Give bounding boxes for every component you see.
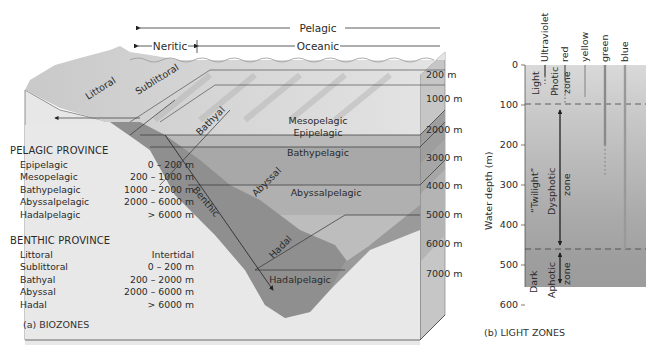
legend-row: Bathypelagic1000 – 2000 m xyxy=(10,184,194,197)
svg-text:5000 m: 5000 m xyxy=(426,209,462,220)
svg-text:400: 400 xyxy=(500,219,518,230)
svg-text:0: 0 xyxy=(512,59,518,70)
light-zones-chart: 0 100 200 300 400 500 600 Water depth (m… xyxy=(483,12,646,310)
label-epipelagic: Epipelagic xyxy=(294,127,343,138)
svg-text:4000 m: 4000 m xyxy=(426,180,462,191)
legend-row: Abyssalpelagic2000 – 6000 m xyxy=(10,196,194,209)
legend-row: Epipelagic0 – 200 m xyxy=(10,159,194,172)
legend-row: Mesopelagic200 – 1000 m xyxy=(10,171,194,184)
oceanic-bracket: Oceanic xyxy=(198,40,440,52)
svg-text:2000 m: 2000 m xyxy=(426,124,462,135)
svg-text:600: 600 xyxy=(500,299,518,310)
benthic-province-title: BENTHIC PROVINCE xyxy=(10,235,194,248)
label-abyssalpelagic: Abyssalpelagic xyxy=(291,187,362,198)
legend-row: Hadal> 6000 m xyxy=(10,299,194,312)
pelagic-province-legend: PELAGIC PROVINCE Epipelagic0 – 200 m Mes… xyxy=(10,145,194,222)
benthic-province-legend: BENTHIC PROVINCE LittoralIntertidal Subl… xyxy=(10,235,194,312)
svg-text:yellow: yellow xyxy=(579,31,590,62)
zone-photic: Photic xyxy=(549,67,560,96)
legend-row: LittoralIntertidal xyxy=(10,249,194,262)
zone-light: Light xyxy=(530,71,541,95)
svg-text:1000 m: 1000 m xyxy=(426,93,462,104)
zone-aphotic: Aphotic xyxy=(546,262,557,298)
caption-light-zones: (b) LIGHT ZONES xyxy=(484,327,565,338)
svg-text:Oceanic: Oceanic xyxy=(297,40,340,52)
legend-row: Abyssal2000 – 6000 m xyxy=(10,286,194,299)
svg-text:200: 200 xyxy=(500,139,518,150)
legend-row: Hadalpelagic> 6000 m xyxy=(10,209,194,222)
zone-twilight: “Twilight” xyxy=(529,167,540,213)
pelagic-bracket: Pelagic xyxy=(140,22,440,34)
svg-text:red: red xyxy=(559,46,570,62)
svg-text:7000 m: 7000 m xyxy=(426,268,462,279)
svg-text:blue: blue xyxy=(619,41,630,62)
svg-text:200 m: 200 m xyxy=(426,69,456,80)
legend-row: Sublittoral0 – 200 m xyxy=(10,261,194,274)
svg-text:100: 100 xyxy=(500,99,518,110)
zone-photic-zone: zone xyxy=(561,71,572,94)
label-mesopelagic: Mesopelagic xyxy=(288,115,347,126)
label-bathypelagic: Bathypelagic xyxy=(287,147,349,158)
zone-dysphotic: Dysphotic xyxy=(546,168,557,215)
svg-text:green: green xyxy=(599,35,610,62)
zone-dark: Dark xyxy=(528,270,539,293)
label-hadalpelagic: Hadalpelagic xyxy=(269,274,331,285)
svg-text:6000 m: 6000 m xyxy=(426,238,462,249)
svg-text:Pelagic: Pelagic xyxy=(299,22,336,34)
svg-text:Neritic: Neritic xyxy=(153,40,188,52)
y-axis-label: Water depth (m) xyxy=(483,152,494,230)
svg-text:300: 300 xyxy=(500,179,518,190)
legend-row: Bathyal200 – 2000 m xyxy=(10,274,194,287)
neritic-bracket: Neritic xyxy=(138,40,197,53)
caption-biozones: (a) BIOZONES xyxy=(23,319,89,330)
svg-text:500: 500 xyxy=(500,259,518,270)
pelagic-province-title: PELAGIC PROVINCE xyxy=(10,145,194,158)
svg-text:Ultraviolet: Ultraviolet xyxy=(539,12,550,62)
zone-aphotic-zone: zone xyxy=(561,262,572,285)
zone-dysphotic-zone: zone xyxy=(561,173,572,196)
svg-text:3000 m: 3000 m xyxy=(426,152,462,163)
